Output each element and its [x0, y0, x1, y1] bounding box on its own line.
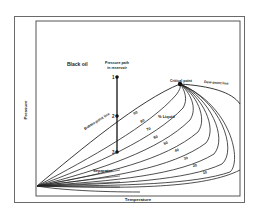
- diagram-title: Black oil: [67, 61, 88, 67]
- path-point-2-label: 2: [112, 114, 115, 119]
- bubble-point-line-label: Bubble-point line: [83, 112, 110, 131]
- quality-label-40: 40: [174, 148, 179, 153]
- quality-lines: [37, 84, 240, 192]
- pressure-path-label-line2: in reservoir: [107, 66, 127, 70]
- path-point-1: [115, 75, 119, 79]
- quality-label-60: 60: [153, 135, 158, 140]
- path-point-1-label: 1: [112, 75, 115, 80]
- quality-line-60: [37, 84, 202, 186]
- phase-diagram: 1 2 3 Black oil Pressure path in reservo…: [0, 0, 261, 219]
- quality-line-50: [37, 84, 210, 186]
- path-point-2: [115, 114, 119, 118]
- y-axis-label: Pressure: [23, 100, 28, 119]
- quality-label-10: 10: [202, 170, 207, 175]
- quality-label-30: 30: [183, 156, 188, 161]
- quality-label-20: 20: [192, 163, 197, 168]
- quality-label-70: 70: [146, 127, 151, 132]
- quality-label-50: 50: [163, 141, 168, 146]
- dew-point-line-label: Dew-point line: [204, 80, 229, 86]
- quality-label-90: 90: [133, 110, 139, 115]
- percent-liquid-label: % Liquid: [158, 114, 175, 119]
- path-point-3-label: 3: [112, 150, 115, 155]
- x-axis-label: Temperature: [125, 197, 152, 202]
- path-point-3: [115, 150, 119, 154]
- pressure-path-label-line1: Pressure path: [105, 61, 129, 65]
- critical-point-label: Critical point: [170, 79, 193, 83]
- separator-label: Separator: [93, 168, 113, 173]
